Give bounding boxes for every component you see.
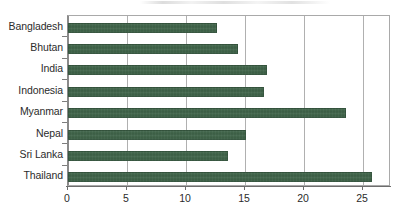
category-label-sri-lanka: Sri Lanka [0,149,63,160]
x-tick-10 [185,186,186,190]
x-tick-20 [303,186,304,190]
bar-chart: BangladeshBhutanIndiaIndonesiaMyanmarNep… [0,0,404,208]
category-tick-4 [62,101,67,102]
bar-sri-lanka [68,151,228,161]
category-tick-2 [62,58,67,59]
category-tick-6 [62,143,67,144]
category-tick-3 [62,79,67,80]
bar-india [68,65,267,75]
x-axis-line [66,186,391,187]
x-tick-label-5: 5 [106,192,146,204]
x-tick-label-0: 0 [47,192,87,204]
bar-bangladesh [68,23,217,33]
category-label-indonesia: Indonesia [0,85,63,96]
category-label-thailand: Thailand [0,170,63,181]
bar-myanmar [68,108,346,118]
x-tick-15 [244,186,245,190]
bar-thailand [68,172,372,182]
x-tick-label-10: 10 [165,192,205,204]
category-axis-labels: BangladeshBhutanIndiaIndonesiaMyanmarNep… [0,15,63,186]
x-tick-0 [67,186,68,190]
category-tick-7 [62,165,67,166]
x-tick-label-15: 15 [224,192,264,204]
bars-layer [68,16,389,185]
bar-indonesia [68,87,264,97]
bar-bhutan [68,44,238,54]
category-label-india: India [0,63,63,74]
bar-nepal [68,130,246,140]
category-label-bhutan: Bhutan [0,42,63,53]
x-tick-5 [126,186,127,190]
category-label-nepal: Nepal [0,128,63,139]
category-tick-5 [62,122,67,123]
category-tick-1 [62,36,67,37]
x-tick-label-25: 25 [342,192,382,204]
category-label-bangladesh: Bangladesh [0,21,63,32]
cropped-title-residue [140,1,330,4]
plot-area [67,15,390,186]
category-label-myanmar: Myanmar [0,106,63,117]
x-tick-label-20: 20 [283,192,323,204]
x-tick-25 [362,186,363,190]
